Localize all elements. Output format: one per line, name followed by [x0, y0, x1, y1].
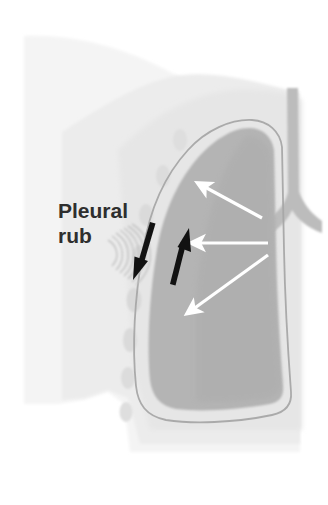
rib-dot	[127, 288, 142, 312]
rib-dot	[173, 129, 187, 151]
pleural-rub-label-line2: rub	[58, 224, 92, 247]
rib-dot	[120, 402, 133, 422]
pleural-rub-figure: Pleural rub	[0, 0, 328, 505]
trachea	[287, 88, 299, 195]
rib-dot	[121, 367, 135, 389]
anatomy-illustration: Pleural rub	[0, 0, 328, 505]
pleural-rub-label-line1: Pleural	[58, 199, 128, 222]
